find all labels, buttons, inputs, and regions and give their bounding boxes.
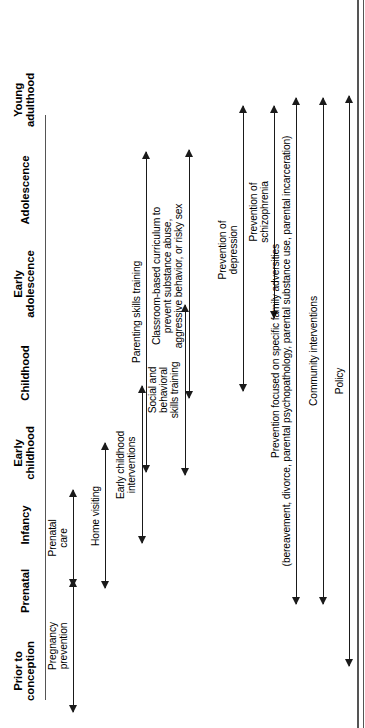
arrowhead-right	[292, 97, 300, 105]
arrowhead-left	[185, 391, 193, 399]
stage-label-infancy: Infancy	[19, 494, 31, 556]
arrowhead-right	[319, 97, 327, 105]
stage-label-early-adolescence: Early adolescence	[12, 236, 36, 332]
arrowhead-right	[69, 489, 77, 497]
timeline-figure: Prior to conception Prenatal Infancy Ear…	[0, 0, 365, 728]
arrowhead-left	[138, 536, 146, 544]
arrowhead-left	[239, 384, 247, 392]
arrow-shaft	[73, 580, 74, 712]
stage-label-early-childhood: Early childhood	[12, 414, 36, 492]
arrowhead-left	[69, 579, 77, 587]
arrow-shaft	[349, 96, 350, 666]
arrowhead-left	[292, 597, 300, 605]
arrow-shaft	[296, 98, 297, 604]
arrow-shaft	[323, 98, 324, 604]
arrow-shaft	[146, 152, 147, 472]
arrow-label-family-adversities: Prevention focused on specific family ad…	[270, 71, 292, 631]
stage-label-prior-to-conception: Prior to conception	[12, 628, 36, 714]
arrow-label-prevention-of-schizophrenia: Prevention of schizophrenia	[248, 112, 270, 312]
arrowhead-left	[142, 465, 150, 473]
arrow-label-pregnancy-prevention: Pregnancy prevention	[47, 586, 69, 706]
arrow-label-parenting-skills-training: Parenting skills training	[131, 162, 142, 462]
arrow-shaft	[243, 106, 244, 391]
arrow-label-classroom-based-curriculum: Classroom-based curriculum to prevent su…	[151, 126, 185, 426]
arrow-shaft	[73, 490, 74, 586]
figure-border-line-outer	[363, 0, 365, 728]
arrowhead-right	[185, 149, 193, 157]
arrow-shaft	[185, 305, 186, 475]
arrowhead-right	[239, 105, 247, 113]
arrow-shaft	[189, 150, 190, 398]
arrowhead-right	[345, 95, 353, 103]
arrowhead-right	[101, 442, 109, 450]
arrow-label-prenatal-care: Prenatal care	[47, 488, 69, 588]
figure-stage: Prior to conception Prenatal Infancy Ear…	[0, 0, 365, 728]
stage-label-prenatal: Prenatal	[19, 558, 31, 624]
stage-label-childhood: Childhood	[19, 334, 31, 412]
arrow-label-policy: Policy	[334, 281, 345, 481]
figure-border-line-inner	[357, 0, 359, 728]
arrowhead-left	[181, 468, 189, 476]
arrowhead-left	[101, 581, 109, 589]
arrow-label-community-interventions: Community interventions	[308, 201, 319, 501]
stage-label-adolescence: Adolescence	[19, 144, 31, 236]
arrowhead-right	[142, 151, 150, 159]
arrow-label-prevention-of-depression: Prevention of depression	[217, 150, 239, 350]
arrowhead-left	[319, 597, 327, 605]
arrow-shaft	[105, 443, 106, 588]
stage-label-young-adulthood: Young adulthood	[12, 58, 36, 142]
arrowhead-left	[69, 705, 77, 713]
arrowhead-left	[345, 659, 353, 667]
arrow-label-home-visiting: Home visiting	[90, 441, 101, 591]
